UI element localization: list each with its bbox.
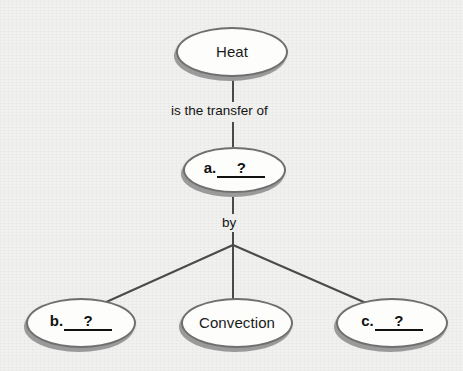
node-heat[interactable]: Heat	[176, 27, 288, 77]
node-heat-label: Heat	[216, 44, 248, 59]
concept-map-canvas: Heat is the transfer of a.? by b.? Conve…	[0, 0, 463, 371]
connector-branch-to-node-b	[104, 245, 233, 303]
node-answer-b-prefix: b.	[50, 313, 63, 328]
node-convection[interactable]: Convection	[181, 298, 293, 348]
node-answer-a[interactable]: a.?	[183, 147, 286, 193]
node-answer-c-prefix: c.	[361, 313, 374, 328]
node-convection-label: Convection	[199, 315, 275, 330]
node-answer-a-slot[interactable]: ?	[217, 160, 265, 178]
edge-label-by: by	[222, 216, 236, 230]
node-answer-b[interactable]: b.?	[26, 298, 136, 348]
node-answer-b-label: b.?	[50, 313, 112, 331]
node-answer-c-slot[interactable]: ?	[375, 313, 423, 331]
connector-branch-to-node-c	[233, 245, 366, 303]
edge-label-is-the-transfer-of: is the transfer of	[171, 104, 268, 118]
node-answer-b-slot[interactable]: ?	[64, 313, 112, 331]
node-answer-c-label: c.?	[361, 313, 423, 331]
node-answer-a-label: a.?	[204, 160, 266, 178]
node-answer-c[interactable]: c.?	[336, 298, 448, 348]
node-answer-a-prefix: a.	[204, 160, 217, 175]
